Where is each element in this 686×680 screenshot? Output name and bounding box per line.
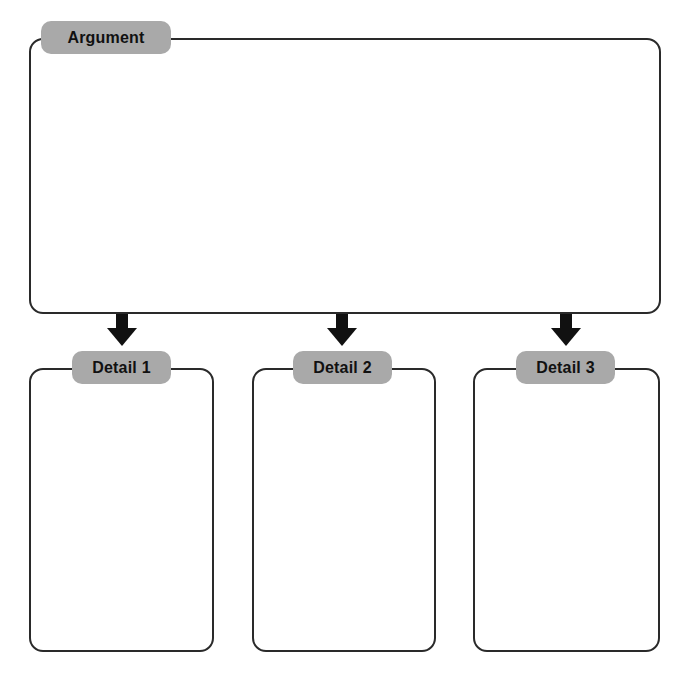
detail-3-label: Detail 3 bbox=[516, 351, 615, 384]
argument-box[interactable] bbox=[29, 38, 661, 314]
detail-2-box[interactable] bbox=[252, 368, 436, 652]
detail-1-box[interactable] bbox=[29, 368, 214, 652]
arrow-down-icon bbox=[107, 314, 137, 346]
arrow-down-icon bbox=[327, 314, 357, 346]
detail-1-label: Detail 1 bbox=[72, 351, 171, 384]
detail-3-box[interactable] bbox=[473, 368, 660, 652]
arrow-down-icon bbox=[551, 314, 581, 346]
detail-2-label: Detail 2 bbox=[293, 351, 392, 384]
argument-label: Argument bbox=[41, 21, 171, 54]
